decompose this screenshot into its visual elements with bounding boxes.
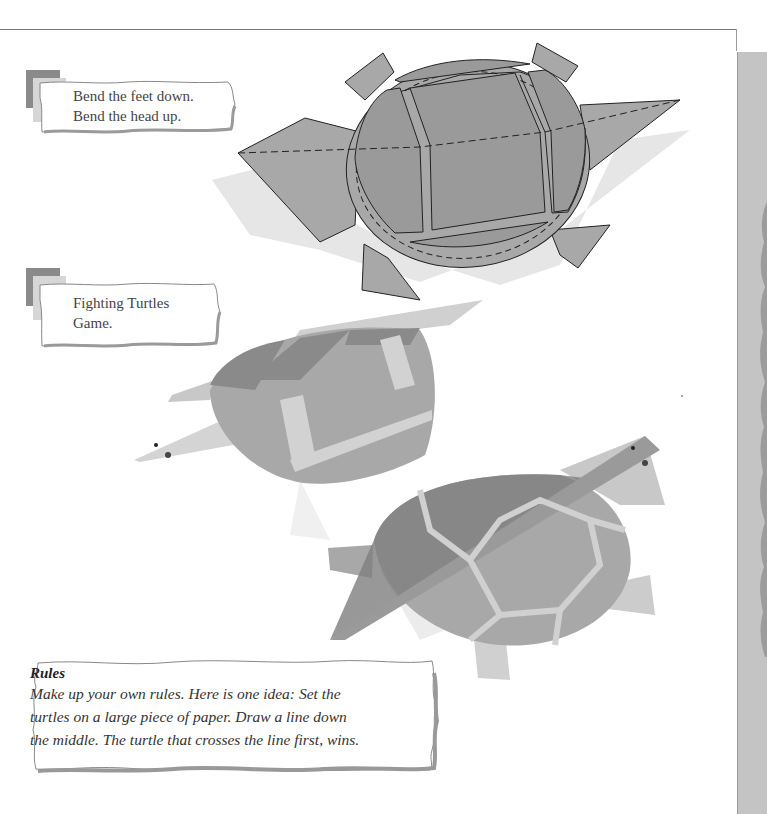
rules-panel: Rules Make up your own rules. Here is on… — [30, 664, 430, 751]
rules-line: Make up your own rules. Here is one idea… — [30, 682, 430, 705]
rules-line: the middle. The turtle that crosses the … — [30, 728, 430, 751]
rules-line: turtles on a large piece of paper. Draw … — [30, 705, 430, 728]
rules-title: Rules — [30, 664, 430, 682]
flat-turtle-diagram — [212, 43, 690, 300]
